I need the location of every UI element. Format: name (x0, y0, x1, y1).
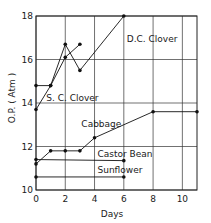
data-point (49, 149, 53, 153)
data-point (63, 42, 67, 46)
series-label-cabbage: Cabbage (81, 119, 121, 129)
data-point (34, 108, 38, 112)
series-label-sunflower: Sunflower (97, 165, 142, 175)
y-tick-label: 16 (22, 55, 34, 65)
x-tick-label: 8 (150, 194, 156, 204)
data-point (63, 149, 67, 153)
data-point (78, 149, 82, 153)
data-point (122, 175, 126, 179)
series-label-d-c-clover: D.C. Clover (127, 34, 178, 44)
data-point (34, 84, 38, 88)
data-point (34, 175, 38, 179)
data-point (63, 56, 67, 60)
y-tick-label: 10 (22, 185, 34, 195)
y-axis-label: O.P. ( Atm ) (7, 73, 17, 123)
y-tick-label: 18 (22, 11, 34, 21)
chart: 02468101012141618 D.C. CloverS. C. Clove… (0, 0, 211, 223)
x-tick-label: 10 (177, 194, 189, 204)
x-tick-label: 2 (62, 194, 68, 204)
data-point (122, 159, 126, 163)
x-axis-label: Days (101, 209, 124, 219)
x-tick-label: 0 (33, 194, 39, 204)
series-labels: D.C. CloverS. C. CloverCabbageCastor Bea… (46, 34, 177, 175)
data-point (122, 14, 126, 18)
data-point (78, 69, 82, 73)
data-point (151, 110, 155, 114)
series-label-castor-bean: Castor Bean (97, 149, 152, 159)
series-label-s-c-clover: S. C. Clover (46, 93, 99, 103)
series-line-castor-bean (36, 160, 124, 161)
data-point (93, 136, 97, 140)
y-tick-label: 12 (22, 142, 33, 152)
data-point (34, 162, 38, 166)
data-point (195, 110, 199, 114)
y-tick-label: 14 (22, 98, 34, 108)
x-tick-label: 4 (92, 194, 98, 204)
data-point (78, 42, 82, 46)
data-point (34, 158, 38, 162)
x-tick-label: 6 (121, 194, 127, 204)
data-point (49, 84, 53, 88)
